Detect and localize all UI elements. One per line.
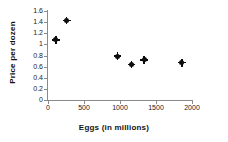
y-tick-mark [44, 22, 47, 23]
x-tick-label: 500 [64, 104, 104, 112]
data-point [129, 62, 134, 67]
y-tick-mark [44, 89, 47, 90]
x-axis-title: Eggs (in millions) [0, 123, 228, 132]
x-tick-label: 2000 [172, 104, 212, 112]
x-tick-label: 1000 [100, 104, 140, 112]
y-tick-mark [44, 33, 47, 34]
y-axis-line [47, 10, 48, 101]
data-point [142, 57, 147, 62]
x-tick-label: 0 [28, 104, 68, 112]
y-tick-mark [44, 56, 47, 57]
y-tick-mark [44, 44, 47, 45]
scatter-chart: 00.20.40.60.811.21.41.6 0500100015002000… [0, 0, 228, 142]
y-axis-title: Price per dozen [8, 5, 17, 101]
y-tick-mark [44, 100, 47, 101]
y-tick-mark [44, 11, 47, 12]
y-tick-mark [44, 67, 47, 68]
data-point [53, 37, 58, 42]
data-point [115, 54, 120, 59]
data-point [64, 18, 69, 23]
x-tick-label: 1500 [136, 104, 176, 112]
data-point [179, 60, 184, 65]
y-tick-mark [44, 78, 47, 79]
